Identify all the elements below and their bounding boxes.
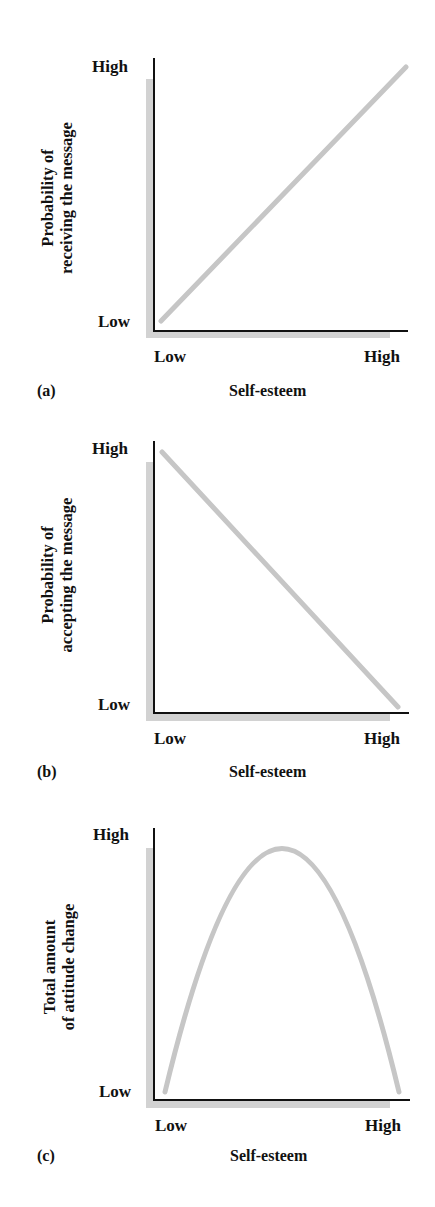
panel-b: High Low Low High Probability of accepti…	[0, 400, 435, 800]
y-tick-high: High	[93, 826, 129, 843]
y-tick-low: Low	[99, 1083, 131, 1100]
y-axis-shadow	[146, 462, 153, 721]
x-axis-shadow	[146, 331, 390, 338]
data-curve	[165, 849, 399, 1093]
x-tick-low: Low	[154, 348, 186, 365]
x-axis-label: Self-esteem	[229, 383, 306, 399]
x-tick-high: High	[364, 730, 400, 747]
y-tick-high: High	[92, 440, 128, 457]
y-tick-high: High	[92, 58, 128, 75]
x-tick-low: Low	[154, 730, 186, 747]
panel-tag: (a)	[37, 383, 56, 399]
x-tick-low: Low	[155, 1117, 187, 1134]
x-axis-shadow	[146, 1100, 390, 1108]
panel-tag: (b)	[37, 764, 57, 780]
panel-a: High Low Low High Probability of receivi…	[0, 0, 435, 400]
y-axis-shadow	[146, 848, 153, 1108]
y-axis-label: Probability of receiving the message	[38, 122, 76, 274]
y-tick-low: Low	[98, 313, 130, 330]
x-tick-high: High	[364, 348, 400, 365]
y-tick-low: Low	[98, 696, 130, 713]
x-axis-label: Self-esteem	[229, 764, 306, 780]
x-tick-high: High	[365, 1117, 401, 1134]
y-axis-shadow	[146, 79, 153, 338]
data-line	[161, 67, 406, 321]
x-axis-shadow	[146, 713, 390, 721]
x-axis-label: Self-esteem	[230, 1148, 307, 1164]
panel-c: High Low Low High Total amount of attitu…	[0, 800, 435, 1207]
data-line	[162, 452, 398, 707]
y-axis-label: Total amount of attitude change	[40, 904, 78, 1031]
panel-tag: (c)	[37, 1148, 55, 1164]
y-axis-label: Probability of accepting the message	[38, 498, 76, 653]
